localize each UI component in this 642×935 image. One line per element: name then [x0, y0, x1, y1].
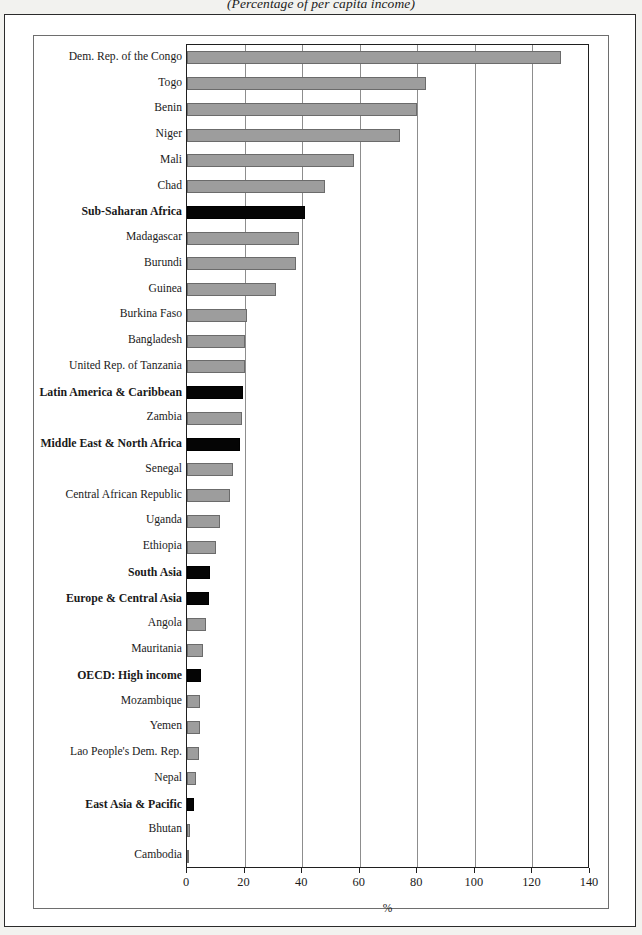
bar-yemen — [187, 721, 200, 734]
bar-row — [187, 586, 588, 612]
bar-row — [187, 148, 588, 174]
x-tick-label-40: 40 — [295, 875, 307, 890]
category-label-south-asia: South Asia — [128, 566, 182, 578]
bar-sub-saharan-africa — [187, 206, 305, 219]
bar-mozambique — [187, 695, 200, 708]
bar-benin — [187, 103, 417, 116]
bar-row — [187, 715, 588, 741]
category-label-zambia: Zambia — [147, 411, 182, 423]
bar-row — [187, 277, 588, 303]
category-label-chad: Chad — [158, 180, 182, 192]
bar-south-asia — [187, 566, 210, 579]
category-label-cambodia: Cambodia — [134, 849, 182, 861]
bar-row — [187, 174, 588, 200]
x-tick-label-0: 0 — [183, 875, 189, 890]
bar-chart: Dem. Rep. of the CongoTogoBeninNigerMali… — [0, 0, 642, 935]
bar-latin-america-caribbean — [187, 386, 243, 399]
plot-area — [186, 44, 589, 868]
bar-row — [187, 740, 588, 766]
bar-row — [187, 354, 588, 380]
category-label-benin: Benin — [154, 102, 182, 114]
x-tick-40 — [301, 868, 302, 873]
bar-row — [187, 380, 588, 406]
bar-mauritania — [187, 644, 203, 657]
x-tick-label-80: 80 — [410, 875, 422, 890]
bar-madagascar — [187, 232, 299, 245]
bar-ethiopia — [187, 541, 216, 554]
category-label-guinea: Guinea — [149, 283, 182, 295]
x-tick-80 — [416, 868, 417, 873]
bar-zambia — [187, 412, 242, 425]
bar-row — [187, 509, 588, 535]
category-label-latin-america-caribbean: Latin America & Caribbean — [39, 386, 182, 398]
category-label-mozambique: Mozambique — [121, 695, 182, 707]
category-label-central-african-republic: Central African Republic — [65, 489, 182, 501]
bar-mali — [187, 154, 354, 167]
category-label-angola: Angola — [148, 617, 182, 629]
category-label-madagascar: Madagascar — [126, 231, 182, 243]
x-tick-100 — [474, 868, 475, 873]
bar-row — [187, 689, 588, 715]
bar-row — [187, 251, 588, 277]
x-tick-label-140: 140 — [580, 875, 599, 890]
bar-row — [187, 406, 588, 432]
category-label-oecd-high-income: OECD: High income — [77, 669, 182, 681]
bar-niger — [187, 129, 400, 142]
category-label-middle-east-north-africa: Middle East & North Africa — [40, 437, 182, 449]
bar-row — [187, 843, 588, 869]
x-tick-label-100: 100 — [465, 875, 484, 890]
category-label-burkina-faso: Burkina Faso — [120, 308, 182, 320]
bar-bangladesh — [187, 335, 245, 348]
x-tick-140 — [589, 868, 590, 873]
category-label-yemen: Yemen — [150, 720, 182, 732]
category-label-lao-people-s-dem-rep: Lao People's Dem. Rep. — [70, 746, 182, 758]
page-background: (Percentage of per capita income) Dem. R… — [0, 0, 642, 935]
category-label-bhutan: Bhutan — [149, 823, 183, 835]
bar-row — [187, 200, 588, 226]
bar-nepal — [187, 772, 196, 785]
category-label-united-rep-of-tanzania: United Rep. of Tanzania — [69, 360, 182, 372]
bar-europe-central-asia — [187, 592, 209, 605]
bar-row — [187, 303, 588, 329]
bar-senegal — [187, 463, 233, 476]
bar-row — [187, 328, 588, 354]
category-label-togo: Togo — [158, 77, 182, 89]
bar-guinea — [187, 283, 276, 296]
category-label-mauritania: Mauritania — [131, 643, 182, 655]
bar-row — [187, 612, 588, 638]
bar-row — [187, 637, 588, 663]
category-label-europe-central-asia: Europe & Central Asia — [66, 592, 182, 604]
category-label-uganda: Uganda — [146, 514, 182, 526]
category-label-dem-rep-of-the-congo: Dem. Rep. of the Congo — [69, 51, 182, 63]
bar-row — [187, 457, 588, 483]
x-tick-120 — [531, 868, 532, 873]
bar-row — [187, 483, 588, 509]
category-label-nepal: Nepal — [154, 772, 182, 784]
bar-row — [187, 818, 588, 844]
bar-united-rep-of-tanzania — [187, 360, 245, 373]
bar-row — [187, 560, 588, 586]
bar-rows — [187, 45, 588, 867]
bar-row — [187, 97, 588, 123]
bar-dem-rep-of-the-congo — [187, 51, 561, 64]
bar-row — [187, 766, 588, 792]
bar-row — [187, 225, 588, 251]
category-label-burundi: Burundi — [144, 257, 182, 269]
bar-row — [187, 71, 588, 97]
x-tick-0 — [186, 868, 187, 873]
bar-central-african-republic — [187, 489, 230, 502]
bar-row — [187, 663, 588, 689]
bar-burundi — [187, 257, 296, 270]
bar-uganda — [187, 515, 220, 528]
category-label-bangladesh: Bangladesh — [128, 334, 182, 346]
bar-chad — [187, 180, 325, 193]
bar-bhutan — [187, 824, 190, 837]
x-tick-20 — [244, 868, 245, 873]
bar-lao-people-s-dem-rep — [187, 747, 199, 760]
bar-togo — [187, 77, 426, 90]
x-tick-label-60: 60 — [353, 875, 365, 890]
x-tick-label-20: 20 — [237, 875, 249, 890]
x-tick-60 — [359, 868, 360, 873]
category-label-sub-saharan-africa: Sub-Saharan Africa — [81, 205, 182, 217]
x-tick-label-120: 120 — [522, 875, 541, 890]
